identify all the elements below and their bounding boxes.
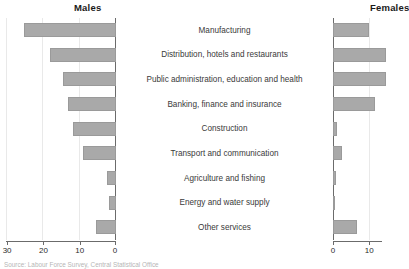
axis-tick-mark — [115, 241, 116, 245]
bar-row — [333, 141, 382, 166]
category-label: Energy and water supply — [116, 191, 333, 216]
bar-row — [6, 141, 116, 166]
category-label: Public administration, education and hea… — [116, 67, 333, 92]
axis-tick-label: 0 — [331, 246, 335, 255]
bar — [333, 220, 357, 234]
bar-row — [6, 67, 116, 92]
bar — [333, 97, 375, 111]
value-axis-line — [6, 241, 116, 242]
bar-row — [333, 191, 382, 216]
bar-row — [333, 215, 382, 240]
category-label: Banking, finance and insurance — [116, 92, 333, 117]
bar — [96, 220, 116, 234]
bar — [333, 196, 335, 210]
axis-tick-label: 20 — [39, 246, 48, 255]
bar — [333, 72, 386, 86]
males-axis-ticks: 3020100 — [6, 241, 116, 257]
category-label: Manufacturing — [116, 18, 333, 43]
females-panel-title: Females — [370, 2, 409, 13]
axis-tick-mark — [333, 241, 334, 245]
bar-row — [6, 43, 116, 68]
category-label: Other services — [116, 215, 333, 240]
males-panel-title: Males — [74, 2, 101, 13]
bar — [68, 97, 116, 111]
axis-tick-mark — [80, 241, 81, 245]
axis-tick-mark — [369, 241, 370, 245]
bar-row — [333, 166, 382, 191]
bar — [24, 23, 116, 37]
category-label: Distribution, hotels and restaurants — [116, 43, 333, 68]
bar-row — [6, 191, 116, 216]
bar — [333, 122, 337, 136]
axis-tick-label: 10 — [365, 246, 374, 255]
bar-row — [6, 117, 116, 142]
bar-row — [6, 215, 116, 240]
axis-tick-label: 30 — [3, 246, 12, 255]
category-label-column: ManufacturingDistribution, hotels and re… — [116, 18, 333, 240]
bar — [107, 171, 116, 185]
bar — [73, 122, 116, 136]
bar — [63, 72, 116, 86]
females-axis-ticks: 010 — [333, 241, 382, 257]
females-plot-panel — [333, 18, 382, 240]
bar-row — [333, 92, 382, 117]
males-plot-area — [6, 18, 116, 240]
bar-row — [333, 43, 382, 68]
bar-row — [6, 18, 116, 43]
axis-tick-mark — [43, 241, 44, 245]
axis-tick-mark — [7, 241, 8, 245]
females-plot-area — [333, 18, 382, 240]
bar-row — [333, 67, 382, 92]
bar-row — [6, 92, 116, 117]
bar — [333, 23, 369, 37]
category-label: Transport and communication — [116, 141, 333, 166]
category-label: Agriculture and fishing — [116, 166, 333, 191]
bar — [333, 171, 336, 185]
bar-row — [333, 117, 382, 142]
bar — [50, 48, 116, 62]
source-note: Source: Labour Force Survey, Central Sta… — [4, 261, 159, 268]
axis-tick-label: 0 — [113, 246, 117, 255]
bar-row — [333, 18, 382, 43]
bar-row — [6, 166, 116, 191]
value-axis-line — [333, 241, 382, 242]
bar — [333, 48, 386, 62]
males-plot-panel — [6, 18, 116, 240]
category-label: Construction — [116, 117, 333, 142]
bar — [333, 146, 342, 160]
axis-tick-label: 10 — [75, 246, 84, 255]
bar — [83, 146, 116, 160]
